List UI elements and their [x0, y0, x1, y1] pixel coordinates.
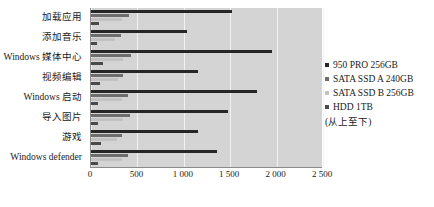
bar: [91, 150, 217, 153]
bar-group: [91, 8, 322, 28]
bar: [91, 158, 122, 161]
bar: [91, 14, 129, 17]
bar: [91, 58, 123, 61]
bar: [91, 74, 123, 77]
bar-group: [91, 127, 322, 147]
bar: [91, 90, 257, 93]
category-axis-labels: 加载应用添加音乐Windows 媒体中心视频编辑Windows 启动导入图片游戏…: [0, 8, 86, 168]
bar-group: [91, 28, 322, 48]
x-axis-tick: 0: [88, 170, 93, 179]
bar: [91, 78, 118, 81]
legend-label: SATA SSD A 240GB: [333, 74, 413, 84]
bar: [91, 130, 198, 133]
legend-item: SATA SSD B 256GB: [325, 86, 434, 100]
bar: [91, 134, 122, 137]
bar-group: [91, 147, 322, 167]
bar: [91, 114, 130, 117]
bar: [91, 70, 198, 73]
legend-label: 950 PRO 256GB: [333, 60, 398, 70]
legend-note: (从上至下): [325, 114, 434, 128]
bar: [91, 118, 123, 121]
gridline: [323, 8, 324, 167]
legend-label: SATA SSD B 256GB: [333, 88, 414, 98]
x-axis-tick: 2 500: [312, 170, 332, 179]
x-axis-tick: 1 500: [219, 170, 239, 179]
bar: [91, 142, 101, 145]
bar: [91, 94, 128, 97]
category-label: Windows 媒体中心: [0, 48, 86, 68]
legend-label: HDD 1TB: [333, 102, 373, 112]
legend-item: HDD 1TB: [325, 100, 434, 114]
bar: [91, 98, 122, 101]
bar: [91, 138, 117, 141]
legend-swatch-icon: [325, 105, 329, 109]
bar: [91, 54, 131, 57]
bar: [91, 38, 115, 41]
chart-legend: 950 PRO 256GBSATA SSD A 240GBSATA SSD B …: [325, 58, 434, 128]
bar: [91, 18, 122, 21]
category-label: 添加音乐: [0, 28, 86, 48]
bar: [91, 30, 187, 33]
bar: [91, 34, 121, 37]
legend-swatch-icon: [325, 63, 329, 67]
bar-groups: [91, 8, 322, 167]
category-label: Windows defender: [0, 148, 86, 168]
bar-group: [91, 88, 322, 108]
bar-group: [91, 68, 322, 88]
bar: [91, 110, 228, 113]
bar: [91, 62, 103, 65]
bar: [91, 42, 97, 45]
bar: [91, 10, 232, 13]
plot-area: [90, 8, 322, 168]
category-label: 视频编辑: [0, 68, 86, 88]
legend-swatch-icon: [325, 77, 329, 81]
x-axis-tick: 2 000: [265, 170, 285, 179]
bar: [91, 82, 100, 85]
bar-group: [91, 107, 322, 127]
bar: [91, 50, 272, 53]
legend-item: 950 PRO 256GB: [325, 58, 434, 72]
category-label: Windows 启动: [0, 88, 86, 108]
category-label: 加载应用: [0, 8, 86, 28]
category-label: 导入图片: [0, 108, 86, 128]
legend-item: SATA SSD A 240GB: [325, 72, 434, 86]
bar: [91, 122, 98, 125]
category-label: 游戏: [0, 128, 86, 148]
legend-swatch-icon: [325, 91, 329, 95]
x-axis-tick: 1 000: [173, 170, 193, 179]
bar: [91, 102, 98, 105]
bar: [91, 162, 98, 165]
bar: [91, 22, 99, 25]
bar: [91, 154, 128, 157]
value-axis-labels: 05001 0001 5002 0002 500: [90, 170, 322, 184]
bar-group: [91, 48, 322, 68]
bar-chart: 加载应用添加音乐Windows 媒体中心视频编辑Windows 启动导入图片游戏…: [0, 0, 434, 207]
x-axis-tick: 500: [130, 170, 144, 179]
